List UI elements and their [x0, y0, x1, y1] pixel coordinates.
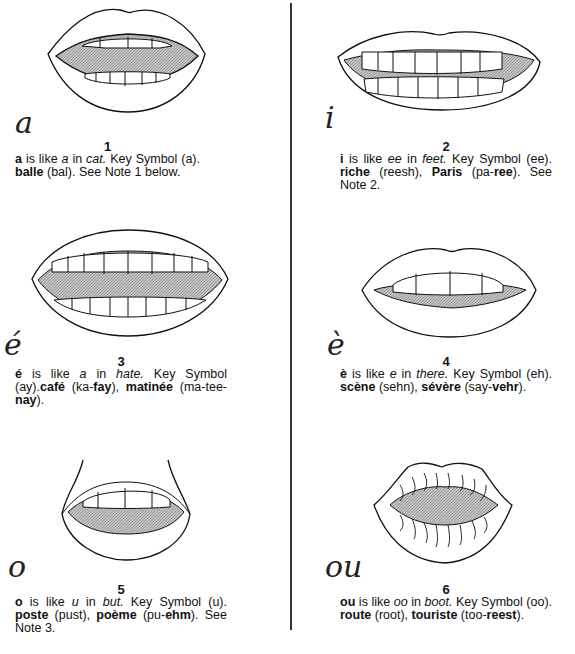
entry-description: è is like e in there. Key Symbol (eh). s…: [340, 368, 552, 394]
french-example: ehm: [165, 608, 191, 622]
entry-description: a is like a in cat. Key Symbol (a). ball…: [15, 153, 200, 179]
english-example-word: but.: [103, 595, 124, 609]
french-example: Paris: [432, 165, 463, 179]
cropped-next-line: [0, 648, 575, 654]
entry-description: ou is like oo in boot. Key Symbol (oo). …: [340, 596, 552, 622]
english-example-word: boot.: [425, 595, 453, 609]
english-example-word: feet.: [422, 152, 446, 166]
cursive-letter-i: i: [325, 103, 335, 133]
french-example: sévère: [421, 380, 461, 394]
english-example-letters: oo: [394, 595, 408, 609]
mouth-illustration-a: [40, 4, 220, 119]
mouth-illustration-e-acute: [28, 224, 234, 342]
french-example: café: [40, 380, 65, 394]
french-example: fay: [93, 380, 111, 394]
english-example-letters: e: [390, 367, 397, 381]
vowel-letter: é: [15, 367, 22, 381]
french-example: poste: [15, 608, 48, 622]
vowel-entry: 3é is like a in hate. Key Symbol (ay).ca…: [15, 355, 227, 407]
cursive-letter-o: o: [8, 552, 26, 582]
french-example: poème: [96, 608, 136, 622]
vowel-entry: 1a is like a in cat. Key Symbol (a). bal…: [15, 140, 200, 179]
french-example: nay: [15, 393, 37, 407]
vowel-entry: 5o is like u in but. Key Symbol (u). pos…: [15, 583, 227, 635]
vowel-entry: 4è is like e in there. Key Symbol (eh). …: [340, 355, 552, 394]
entry-description: i is like ee in feet. Key Symbol (ee). r…: [340, 153, 552, 192]
french-example: ree: [494, 165, 513, 179]
english-example-word: cat.: [86, 152, 106, 166]
english-example-letters: a: [80, 367, 87, 381]
vowel-entry: 2i is like ee in feet. Key Symbol (ee). …: [340, 140, 552, 192]
english-example-word: there.: [416, 367, 448, 381]
vowel-letter: o: [15, 595, 23, 609]
french-example: vehr: [492, 380, 518, 394]
mouth-illustration-i: [334, 22, 544, 117]
vowel-letter: ou: [340, 595, 355, 609]
mouth-illustration-o: [58, 452, 194, 564]
vowel-entry: 6ou is like oo in boot. Key Symbol (oo).…: [340, 583, 552, 622]
french-example: balle: [15, 165, 44, 179]
french-example: touriste: [412, 608, 458, 622]
entry-description: o is like u in but. Key Symbol (u). post…: [15, 596, 227, 635]
mouth-illustration-ou: [370, 455, 516, 567]
french-example: scène: [340, 380, 375, 394]
french-example: matinée: [126, 380, 173, 394]
english-example-word: hate.: [116, 367, 144, 381]
cursive-letter-a: a: [15, 108, 33, 138]
column-divider: [290, 3, 292, 630]
english-example-letters: u: [72, 595, 79, 609]
entry-description: é is like a in hate. Key Symbol (ay).caf…: [15, 368, 227, 407]
vowel-letter: i: [340, 152, 343, 166]
mouth-illustration-e-grave: [358, 240, 540, 340]
vowel-letter: a: [15, 152, 22, 166]
english-example-letters: ee: [388, 152, 402, 166]
french-example: riche: [340, 165, 370, 179]
vowel-letter: è: [340, 367, 347, 381]
cursive-letter-ou: ou: [325, 552, 362, 582]
english-example-letters: a: [62, 152, 69, 166]
french-example: reest: [487, 608, 517, 622]
french-example: route: [340, 608, 371, 622]
